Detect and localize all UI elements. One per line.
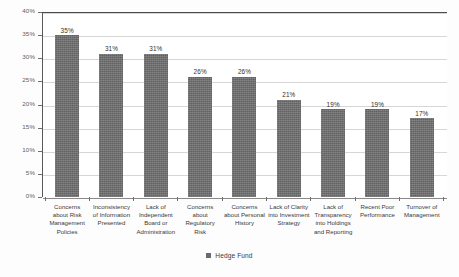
legend-swatch-icon: [206, 253, 211, 258]
y-axis-tick-label: 35%: [22, 30, 35, 37]
y-axis-tick-label: 25%: [22, 76, 35, 83]
bar-slot: 19%: [355, 12, 399, 197]
x-axis-tick-mark: [133, 197, 134, 201]
x-axis-category-label: Inconsistency of Information Presented: [89, 203, 133, 247]
x-axis-tick-mark: [310, 197, 311, 201]
x-axis-category-label: Concerns about Personal History: [222, 203, 266, 247]
bar[interactable]: [321, 109, 345, 197]
x-axis-tick-mark: [45, 197, 46, 201]
x-axis-category-label: Lack of Transparency into Holdings and R…: [311, 203, 355, 247]
x-axis-category-label: Turnover of Management: [400, 203, 444, 247]
x-axis-category-label: Recent Poor Performance: [355, 203, 399, 247]
x-axis-ticks: [42, 197, 447, 201]
bar-slot: 26%: [178, 12, 222, 197]
x-axis-tick-mark: [89, 197, 90, 201]
legend-label: Hedge Fund: [215, 252, 252, 259]
bar-slot: 31%: [89, 12, 133, 197]
x-axis-category-label: Concerns about Regulatory Risk: [178, 203, 222, 247]
bar[interactable]: [144, 54, 168, 197]
bar-slot: 26%: [222, 12, 266, 197]
bar-slot: 35%: [45, 12, 89, 197]
x-axis-tick-mark: [399, 197, 400, 201]
bar-value-label: 19%: [311, 101, 355, 108]
bar-value-label: 19%: [355, 101, 399, 108]
y-axis: 0%5%10%15%20%25%30%35%40%: [0, 12, 42, 197]
y-axis-tick-label: 20%: [22, 100, 35, 107]
x-axis-category-label: Lack of Clarity into Investment Strategy: [267, 203, 311, 247]
bar[interactable]: [99, 54, 123, 197]
y-axis-tick-label: 15%: [22, 123, 35, 130]
x-axis-tick: [311, 197, 355, 201]
x-axis-tick-mark: [266, 197, 267, 201]
bar-value-label: 35%: [45, 27, 89, 34]
bar-slot: 17%: [400, 12, 444, 197]
bar-slot: 31%: [134, 12, 178, 197]
x-axis-tick-mark: [222, 197, 223, 201]
bar-value-label: 26%: [222, 68, 266, 75]
bar[interactable]: [277, 100, 301, 197]
x-axis-tick-mark: [443, 197, 444, 201]
bar-slot: 21%: [267, 12, 311, 197]
y-axis-tick-label: 0%: [26, 192, 35, 199]
bar[interactable]: [365, 109, 389, 197]
y-axis-tick-label: 10%: [22, 146, 35, 153]
y-axis-tick-label: 30%: [22, 53, 35, 60]
x-axis-tick: [178, 197, 222, 201]
x-axis-tick: [267, 197, 311, 201]
x-axis-tick: [400, 197, 444, 201]
chart-legend: Hedge Fund: [0, 252, 459, 259]
bar[interactable]: [55, 35, 79, 197]
x-axis-tick: [355, 197, 399, 201]
x-axis-category-label: Concerns about Risk Management Policies: [45, 203, 89, 247]
bar-series-hedge-fund: 35%31%31%26%26%21%19%19%17%: [42, 12, 447, 197]
x-axis-category-label: Lack of Independent Board or Administrat…: [134, 203, 178, 247]
y-axis-tick-label: 5%: [26, 169, 35, 176]
bar[interactable]: [188, 77, 212, 197]
x-axis-tick-mark: [177, 197, 178, 201]
bar[interactable]: [232, 77, 256, 197]
bar-value-label: 17%: [400, 110, 444, 117]
bar-value-label: 31%: [134, 45, 178, 52]
bar-value-label: 21%: [267, 91, 311, 98]
x-axis-tick: [45, 197, 89, 201]
x-axis-tick-mark: [355, 197, 356, 201]
bar-value-label: 26%: [178, 68, 222, 75]
bar-value-label: 31%: [89, 45, 133, 52]
x-axis-labels: Concerns about Risk Management PoliciesI…: [42, 203, 447, 247]
bar[interactable]: [410, 118, 434, 197]
x-axis-tick: [222, 197, 266, 201]
x-axis-tick: [134, 197, 178, 201]
bar-chart: 0%5%10%15%20%25%30%35%40% 35%31%31%26%26…: [0, 0, 459, 277]
bar-slot: 19%: [311, 12, 355, 197]
x-axis-tick: [89, 197, 133, 201]
y-axis-tick-label: 40%: [22, 7, 35, 14]
